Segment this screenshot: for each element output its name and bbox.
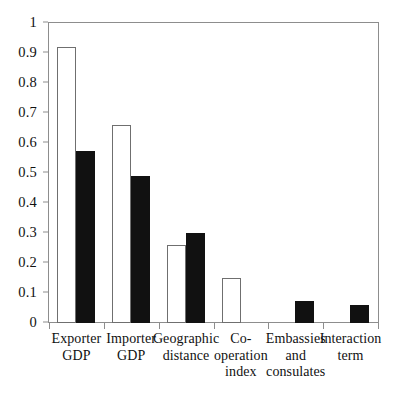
x-axis-category-label-line: term (317, 348, 384, 365)
y-tick-label: 0.4 (18, 195, 37, 210)
x-axis-category-label-line: consulates (262, 364, 329, 381)
bar-open (112, 125, 131, 323)
bar-group (159, 23, 214, 323)
bar-group (323, 23, 378, 323)
bar-open (167, 245, 186, 323)
x-tick-mark (214, 323, 215, 329)
bar-group (49, 23, 104, 323)
x-tick-mark (323, 323, 324, 329)
x-axis-category-label: Interactionterm (317, 331, 384, 364)
x-tick-mark (159, 323, 160, 329)
y-tick-label: 0.2 (18, 255, 37, 270)
bar-filled (131, 176, 150, 323)
bar-open (222, 278, 241, 323)
bar-filled (186, 233, 205, 323)
x-axis-labels: ExporterGDPImporterGDPGeographicdistance… (49, 331, 379, 399)
bar-open (57, 47, 76, 323)
bar-chart-figure: 00.10.20.30.40.50.60.70.80.91 ExporterGD… (0, 0, 397, 402)
y-tick-label: 0 (30, 315, 37, 330)
bar-group (104, 23, 159, 323)
bar-filled (350, 305, 369, 323)
y-tick-label: 0.1 (18, 285, 37, 300)
y-tick-mark (43, 22, 48, 23)
y-tick-mark (43, 262, 48, 263)
y-tick-label: 0.9 (18, 45, 37, 60)
x-axis-category-label-line: Interaction (317, 331, 384, 348)
bar-filled (76, 151, 95, 324)
x-axis-ticks (49, 323, 379, 329)
y-tick-mark (43, 232, 48, 233)
y-tick-mark (43, 142, 48, 143)
y-tick-mark (43, 322, 48, 323)
plot-area (49, 23, 378, 323)
y-tick-mark (43, 112, 48, 113)
y-tick-label: 0.8 (18, 75, 37, 90)
bar-filled (295, 301, 314, 324)
y-tick-label: 1 (30, 15, 37, 30)
bar-group (268, 23, 323, 323)
y-tick-mark (43, 172, 48, 173)
x-tick-mark (268, 323, 269, 329)
x-tick-mark (104, 323, 105, 329)
y-axis: 00.10.20.30.40.50.60.70.80.91 (0, 22, 44, 323)
y-tick-mark (43, 82, 48, 83)
y-tick-label: 0.3 (18, 225, 37, 240)
y-tick-mark (43, 202, 48, 203)
y-tick-label: 0.7 (18, 105, 37, 120)
y-tick-mark (43, 52, 48, 53)
bar-group (214, 23, 269, 323)
y-tick-mark (43, 292, 48, 293)
x-tick-mark (378, 323, 379, 329)
y-tick-label: 0.6 (18, 135, 37, 150)
y-tick-label: 0.5 (18, 165, 37, 180)
x-tick-mark (49, 323, 50, 329)
